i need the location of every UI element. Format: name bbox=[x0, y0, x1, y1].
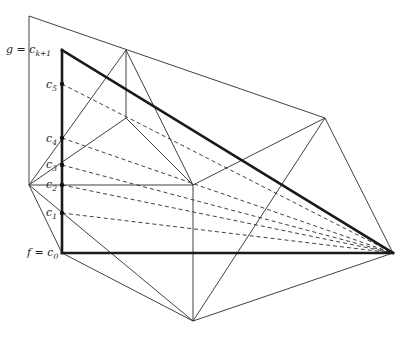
thick-hypotenuse bbox=[62, 50, 393, 253]
dash-c5-D bbox=[62, 84, 393, 253]
edge-H-F bbox=[29, 118, 126, 185]
label-c4: c4 bbox=[46, 132, 57, 147]
label-g-ck1: g = ck+1 bbox=[6, 43, 51, 58]
point-c4 bbox=[60, 136, 64, 140]
edge-B-F bbox=[29, 50, 126, 185]
edge-c0-E bbox=[62, 253, 193, 321]
dash-c3-D bbox=[62, 165, 393, 253]
edge-A-C bbox=[29, 16, 325, 118]
edge-D-E bbox=[193, 253, 393, 321]
label-c3: c3 bbox=[46, 158, 57, 173]
label-c2: c2 bbox=[46, 178, 57, 193]
polytope-diagram: g = ck+1 c5 c4 c3 c2 c1 f = c0 bbox=[0, 0, 410, 338]
edge-G-C bbox=[193, 118, 325, 185]
label-f-c0: f = c0 bbox=[26, 246, 58, 261]
thick-triangle bbox=[62, 50, 393, 253]
label-c5: c5 bbox=[46, 78, 57, 93]
labels: g = ck+1 c5 c4 c3 c2 c1 f = c0 bbox=[6, 43, 58, 261]
edge-B-G bbox=[126, 50, 193, 185]
point-c2 bbox=[60, 183, 64, 187]
dashed-chain bbox=[62, 84, 393, 253]
edge-C-E bbox=[193, 118, 325, 321]
label-c1: c1 bbox=[46, 206, 57, 221]
edge-H-G bbox=[126, 118, 193, 185]
point-c1 bbox=[60, 211, 64, 215]
edge-F-c0 bbox=[29, 185, 62, 253]
point-c3 bbox=[60, 163, 64, 167]
point-c5 bbox=[60, 82, 64, 86]
